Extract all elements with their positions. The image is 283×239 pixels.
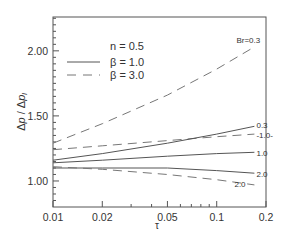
series-layer: Br=0.3-1.0-0.31.02.02.0 [53,36,273,189]
x-tick-label: 0.2 [259,211,274,223]
series-end-label: Br=0.3 [236,36,260,45]
y-tick-label: 1.00 [28,175,49,187]
legend-label-dashed: β = 3.0 [110,69,144,81]
series-line [53,167,254,185]
series-end-label: 0.3 [256,121,268,130]
x-tick-label: 0.05 [157,211,178,223]
y-axis: 1.001.502.00 [28,18,59,200]
x-tick-label: 0.02 [92,211,113,223]
series-line [53,47,254,143]
series-end-label: 1.0 [256,149,268,158]
y-tick-label: 1.50 [28,110,49,122]
x-tick-label: 0.01 [43,211,64,223]
line-chart: 0.010.020.050.10.2 1.001.502.00 Br=0.3-1… [0,0,283,239]
legend-label-solid: β = 1.0 [110,56,144,68]
series-end-label: -1.0- [256,131,273,140]
series-line [53,152,254,163]
x-tick-label: 0.1 [209,211,224,223]
legend-header: n = 0.5 [110,40,144,52]
y-axis-label: Δp / Δpl [15,93,28,131]
plot-frame [53,17,266,207]
series-end-label: 2.0 [234,180,246,189]
legend: n = 0.5 β = 1.0 β = 3.0 [67,40,144,81]
plot-border [53,17,266,207]
series-line [53,134,254,150]
x-axis-label: τ [155,220,159,231]
series-end-label: 2.0 [256,170,268,179]
y-tick-label: 2.00 [28,45,49,57]
